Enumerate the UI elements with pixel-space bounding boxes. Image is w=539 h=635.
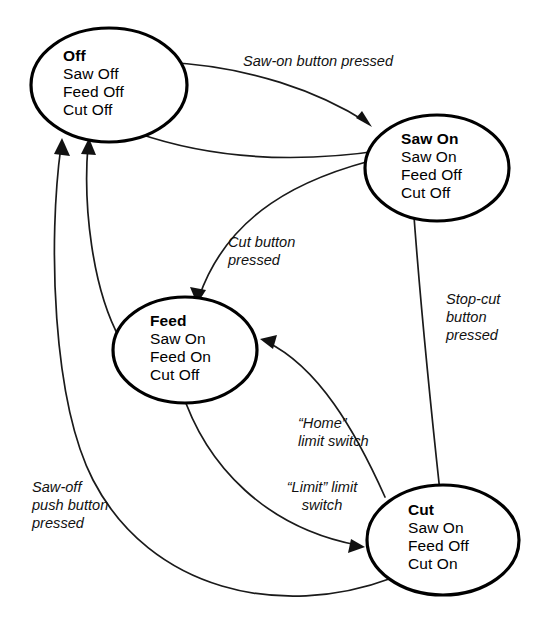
edge-label-stop-cut-line-1: Stop-cut xyxy=(446,290,500,308)
state-output-off-2: Cut Off xyxy=(63,101,124,119)
edge-label-limit-line-1: “Limit” limit xyxy=(252,478,392,496)
edge-label-home-line-2: limit switch xyxy=(298,432,369,450)
edge-feed-to-off xyxy=(81,138,120,339)
edge-label-stop-cut-line-3: pressed xyxy=(446,326,500,344)
state-label-off: Off Saw Off Feed Off Cut Off xyxy=(63,47,124,120)
state-diagram: Off Saw Off Feed Off Cut Off Saw On Saw … xyxy=(0,0,539,635)
state-title-saw-on: Saw On xyxy=(401,130,462,148)
state-title-off: Off xyxy=(63,47,124,65)
state-output-off-1: Feed Off xyxy=(63,83,124,101)
edge-label-cut-pressed-line-1: Cut button xyxy=(228,233,295,251)
state-output-saw-on-2: Cut Off xyxy=(401,184,462,202)
edge-label-cut-pressed-line-2: pressed xyxy=(228,251,295,269)
edge-off-to-sawon xyxy=(163,62,372,127)
state-output-off-0: Saw Off xyxy=(63,65,124,83)
edge-label-limit-line-2: switch xyxy=(252,496,392,514)
edge-cut-to-sawon xyxy=(405,195,440,492)
state-output-saw-on-1: Feed Off xyxy=(401,166,462,184)
edge-label-saw-on-pressed-line-1: Saw-on button pressed xyxy=(243,52,393,70)
edge-label-saw-off-line-1: Saw-off xyxy=(32,478,108,496)
state-output-saw-on-0: Saw On xyxy=(401,148,462,166)
state-output-feed-1: Feed On xyxy=(150,348,211,366)
state-label-cut: Cut Saw On Feed Off Cut On xyxy=(408,501,469,574)
edge-label-saw-off-pressed: Saw-off push button pressed xyxy=(32,478,108,533)
edge-label-saw-off-line-2: push button xyxy=(32,496,108,514)
state-title-feed: Feed xyxy=(150,312,211,330)
edge-sawon-to-off xyxy=(132,128,385,157)
state-label-saw-on: Saw On Saw On Feed Off Cut Off xyxy=(401,130,462,203)
edge-label-saw-off-line-3: pressed xyxy=(32,514,108,532)
edge-label-limit-limit-switch: “Limit” limit switch xyxy=(252,478,392,514)
edge-label-home-limit-switch: “Home” limit switch xyxy=(298,414,369,450)
edge-sawon-to-feed xyxy=(190,157,386,304)
edge-label-saw-on-pressed: Saw-on button pressed xyxy=(243,52,393,70)
state-title-cut: Cut xyxy=(408,501,469,519)
state-output-feed-2: Cut Off xyxy=(150,366,211,384)
edge-label-home-line-1: “Home” xyxy=(298,414,369,432)
state-output-feed-0: Saw On xyxy=(150,330,211,348)
state-output-cut-2: Cut On xyxy=(408,555,469,573)
state-label-feed: Feed Saw On Feed On Cut Off xyxy=(150,312,211,385)
edge-label-stop-cut-pressed: Stop-cut button pressed xyxy=(446,290,500,345)
edge-label-stop-cut-line-2: button xyxy=(446,308,500,326)
state-output-cut-1: Feed Off xyxy=(408,537,469,555)
state-output-cut-0: Saw On xyxy=(408,519,469,537)
edge-label-cut-pressed: Cut button pressed xyxy=(228,233,295,269)
